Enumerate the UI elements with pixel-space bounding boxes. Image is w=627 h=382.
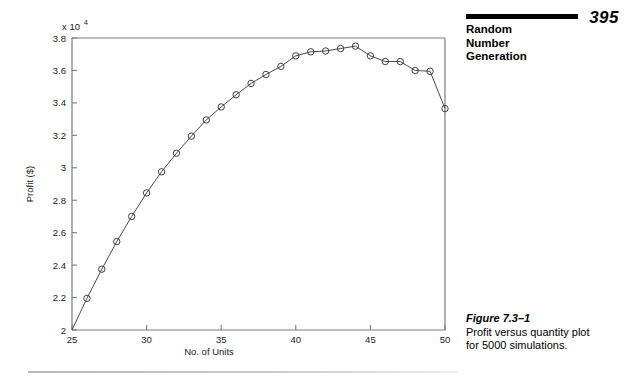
y-axis-exponent: x 10 4 (62, 19, 88, 32)
y-tick-label: 3.4 (53, 97, 66, 108)
figure-caption-line-1: Profit versus quantity plot (466, 326, 624, 339)
y-axis-ticks: 22.22.42.62.833.23.43.63.8 (53, 33, 77, 336)
figure-caption-line-2: for 5000 simulations. (466, 339, 624, 352)
figure-caption-body: Profit versus quantity plot for 5000 sim… (466, 326, 624, 352)
running-head-line-3: Generation (466, 50, 621, 64)
y-tick-label: 2.8 (53, 195, 66, 206)
y-exponent-power: 4 (84, 19, 88, 26)
series-markers (84, 43, 448, 302)
running-head-line-2: Number (466, 37, 621, 51)
header-rule (466, 14, 578, 19)
profit-versus-quantity-chart: 22.22.42.62.833.23.43.63.8 253035404550 … (0, 0, 460, 370)
x-tick-label: 40 (291, 334, 302, 345)
x-tick-label: 35 (216, 334, 227, 345)
x-tick-label: 45 (365, 334, 376, 345)
x-axis-ticks: 253035404550 (67, 325, 451, 345)
y-exponent-base: x 10 (62, 21, 80, 32)
page-bottom-rule (28, 371, 458, 373)
data-series-profit (72, 43, 448, 330)
x-axis-title: No. of Units (184, 346, 234, 357)
y-tick-label: 2.4 (53, 260, 66, 271)
y-tick-label: 2 (61, 325, 66, 336)
x-tick-label: 25 (67, 334, 78, 345)
figure-caption-title: Figure 7.3–1 (466, 312, 624, 325)
page-header: 395 Random Number Generation (466, 14, 621, 64)
running-head: Random Number Generation (466, 23, 621, 64)
chart-canvas: 22.22.42.62.833.23.43.63.8 253035404550 … (0, 0, 460, 370)
page-number: 395 (589, 8, 619, 28)
y-axis-title: Profit ($) (24, 166, 35, 202)
figure-caption: Figure 7.3–1 Profit versus quantity plot… (466, 312, 624, 352)
series-line (72, 46, 445, 330)
y-tick-label: 3.2 (53, 130, 66, 141)
y-tick-label: 3.6 (53, 65, 66, 76)
y-tick-label: 2.6 (53, 227, 66, 238)
y-tick-label: 3.8 (53, 33, 66, 44)
x-tick-label: 30 (141, 334, 152, 345)
y-tick-label: 3 (61, 162, 66, 173)
x-tick-label: 50 (440, 334, 451, 345)
chart-axes (72, 38, 445, 330)
y-tick-label: 2.2 (53, 292, 66, 303)
